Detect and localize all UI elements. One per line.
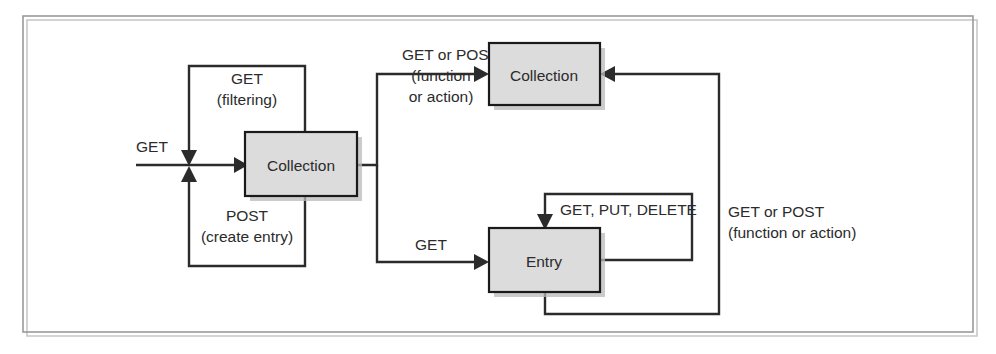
rest-resource-flow-diagram: GET GET (filtering) POST (create entry) … xyxy=(0,0,996,354)
edge-collection-to-top-arrowhead xyxy=(474,66,489,82)
node-label-collection-left: Collection xyxy=(267,157,335,174)
edge-label-right-rail-line2: (function or action) xyxy=(728,224,856,241)
edge-label-entry-self-loop: GET, PUT, DELETE xyxy=(560,201,697,218)
edge-label-get-or-post-line1: GET or POST xyxy=(402,46,499,63)
edge-label-filtering-line2: (filtering) xyxy=(217,91,277,108)
edge-label-input-get: GET xyxy=(136,138,168,155)
edge-label-right-rail-line1: GET or POST xyxy=(728,203,825,220)
edge-label-collection-to-entry: GET xyxy=(415,236,447,253)
edge-label-get-or-post-line3: or action) xyxy=(409,88,474,105)
edge-label-filtering-line1: GET xyxy=(231,70,263,87)
edge-label-create-entry-line2: (create entry) xyxy=(201,228,293,245)
edge-create-entry-loop-arrowhead xyxy=(181,166,197,182)
edge-filtering-loop-arrowhead xyxy=(181,150,197,166)
node-label-entry: Entry xyxy=(526,253,562,270)
edge-label-get-or-post-line2: (function xyxy=(411,67,470,84)
edge-label-create-entry-line1: POST xyxy=(226,207,269,224)
diagram-canvas: GET GET (filtering) POST (create entry) … xyxy=(0,0,996,354)
node-label-collection-top: Collection xyxy=(510,67,578,84)
edge-collection-to-entry-arrowhead xyxy=(474,254,489,270)
